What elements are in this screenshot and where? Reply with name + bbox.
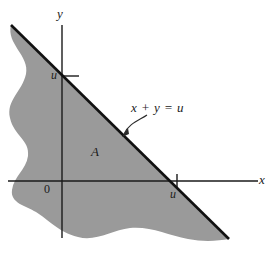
x-axis-label: x <box>259 173 265 186</box>
line-equation-label: x + y = u <box>131 101 184 114</box>
region-label-A: A <box>91 145 99 158</box>
origin-label: 0 <box>44 183 50 195</box>
x-axis-tick-label-u: u <box>170 188 176 200</box>
math-region-diagram <box>0 0 277 258</box>
figure-container: y x u u 0 A x + y = u <box>0 0 277 258</box>
y-axis-tick-label-u: u <box>51 69 57 81</box>
y-axis-label: y <box>57 7 63 20</box>
